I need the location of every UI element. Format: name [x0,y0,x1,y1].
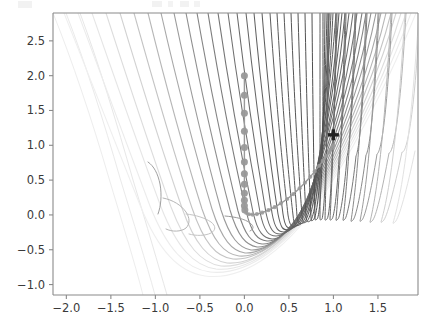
trajectory-point [241,72,248,79]
trajectory-point [291,192,295,196]
trajectory-point [241,170,248,177]
trajectory-point [247,212,251,216]
figure-canvas: −2.0−1.5−1.0−0.50.00.51.01.5 −1.0−0.50.0… [0,0,436,331]
trajectory-point [266,208,270,212]
trajectory-point [285,197,289,201]
trajectory-point [298,186,302,190]
trajectory-point [313,169,317,173]
y-tick-label: 2.0 [27,69,45,83]
trajectory-point [324,154,328,158]
trajectory-point [308,175,312,179]
rosenbrock-contour-plot: −2.0−1.5−1.0−0.50.00.51.01.5 −1.0−0.50.0… [0,0,436,331]
y-tick-label: 0.5 [27,173,45,187]
y-tick-label: −0.5 [17,243,45,257]
x-tick-label: −0.5 [186,301,214,315]
axes-background [53,13,418,295]
x-tick-label: 1.5 [369,301,387,315]
y-tick-label: 1.0 [27,138,45,152]
trajectory-point [241,144,248,151]
x-tick-label: −1.5 [97,301,125,315]
trajectory-point [331,143,335,147]
x-tick-label: −2.0 [52,301,80,315]
y-tick-label: 1.5 [27,103,45,117]
trajectory-point [260,211,264,215]
trajectory-point [273,205,277,209]
trajectory-point [241,181,248,188]
trajectory-point [279,201,283,205]
trajectory-point [321,159,325,163]
trajectory-point [241,92,248,99]
y-tick-label: 0.0 [27,208,45,222]
trajectory-point [241,110,248,117]
y-tick-label: 2.5 [27,34,45,48]
trajectory-point [255,212,259,216]
trajectory-point [241,159,248,166]
trajectory-point [241,190,248,197]
trajectory-point [303,181,307,185]
y-tick-label: −1.0 [17,278,45,292]
trajectory-point [317,164,321,168]
x-tick-label: 0.0 [235,301,253,315]
trajectory-point [250,212,254,216]
x-tick-label: 1.0 [324,301,342,315]
trajectory-point [241,128,248,135]
x-tick-label: 0.5 [280,301,298,315]
x-tick-label: −1.0 [141,301,169,315]
